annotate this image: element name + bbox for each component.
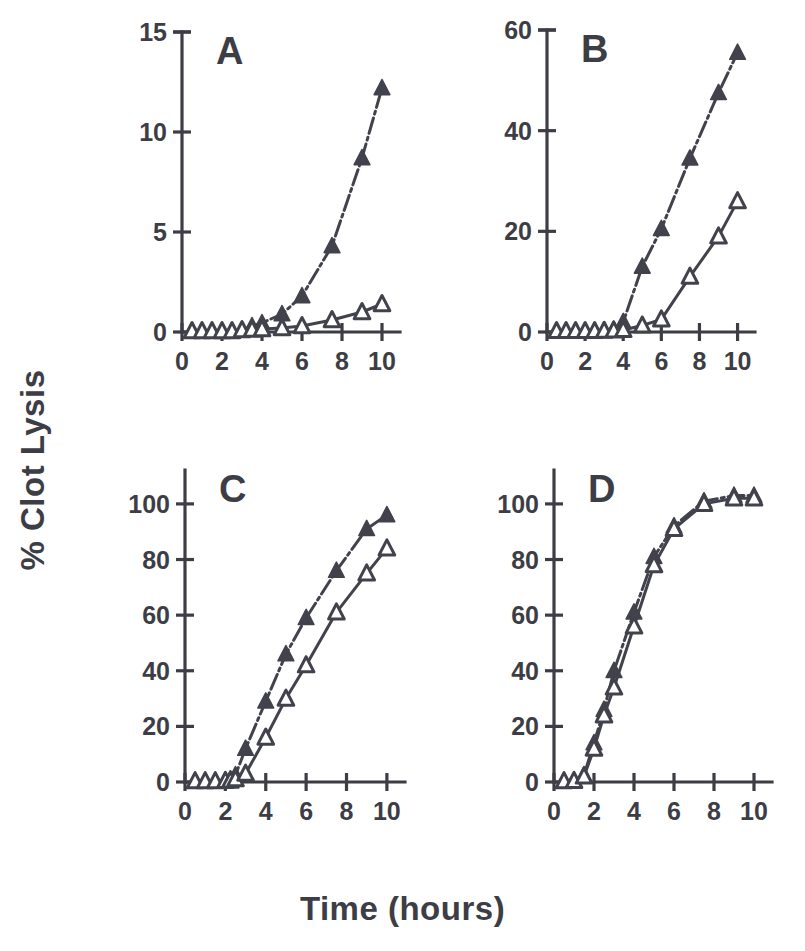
- y-tick-label: 0: [156, 768, 170, 796]
- x-tick-label: 2: [215, 347, 229, 375]
- panel-a: 0510150246810A: [110, 0, 410, 400]
- x-tick-label: 8: [340, 797, 354, 825]
- data-point-open-triangle: [730, 193, 746, 208]
- y-tick-label: 0: [525, 768, 539, 796]
- series-open-triangle: [556, 490, 762, 788]
- data-point-open-triangle: [298, 657, 314, 672]
- x-tick-label: 10: [368, 347, 396, 375]
- x-tick-label: 6: [299, 797, 313, 825]
- panel-letter-c: C: [219, 468, 246, 510]
- data-point-open-triangle: [294, 318, 310, 333]
- data-point-filled-triangle: [238, 740, 254, 755]
- data-point-open-triangle: [726, 490, 742, 505]
- data-point-filled-triangle: [711, 84, 727, 99]
- data-point-filled-triangle: [278, 646, 294, 661]
- data-point-open-triangle: [258, 729, 274, 744]
- data-point-open-triangle: [711, 228, 727, 243]
- x-tick-label: 0: [540, 347, 554, 375]
- y-tick-label: 0: [153, 318, 167, 346]
- data-point-filled-triangle: [379, 507, 395, 522]
- series-open-triangle: [187, 540, 394, 788]
- series-line: [557, 53, 738, 331]
- y-tick-label: 100: [497, 490, 539, 518]
- y-tick-label: 80: [511, 546, 539, 574]
- x-tick-label: 8: [707, 797, 721, 825]
- y-tick-label: 40: [142, 657, 170, 685]
- data-point-filled-triangle: [374, 80, 390, 95]
- x-tick-label: 10: [373, 797, 401, 825]
- data-point-open-triangle: [374, 296, 390, 311]
- data-point-open-triangle: [746, 490, 762, 505]
- data-point-filled-triangle: [634, 258, 650, 273]
- axes: 0204060801000246810: [128, 470, 405, 825]
- data-point-filled-triangle: [258, 693, 274, 708]
- series-line: [195, 515, 387, 781]
- x-tick-label: 10: [740, 797, 768, 825]
- data-point-open-triangle: [586, 740, 602, 755]
- x-tick-label: 8: [335, 347, 349, 375]
- y-tick-label: 0: [518, 318, 532, 346]
- y-tick-label: 80: [142, 546, 170, 574]
- panel-d-plot: 0204060801000246810D: [462, 440, 782, 860]
- panel-letter-d: D: [588, 468, 615, 510]
- data-point-open-triangle: [696, 495, 712, 510]
- panel-d: 0204060801000246810D: [462, 440, 782, 860]
- data-point-open-triangle: [274, 320, 290, 335]
- x-tick-label: 4: [616, 347, 630, 375]
- x-tick-label: 0: [178, 797, 192, 825]
- data-point-open-triangle: [576, 768, 592, 783]
- y-tick-label: 5: [153, 218, 167, 246]
- y-tick-label: 20: [504, 217, 532, 245]
- panel-letter-b: B: [581, 28, 608, 70]
- panel-letter-a: A: [216, 30, 243, 72]
- x-tick-label: 6: [667, 797, 681, 825]
- y-tick-label: 15: [139, 18, 167, 46]
- data-point-open-triangle: [596, 707, 612, 722]
- figure-root: % Clot Lysis 0510150246810A 020406002468…: [0, 0, 805, 951]
- x-tick-label: 10: [724, 347, 752, 375]
- y-tick-label: 20: [142, 712, 170, 740]
- panel-b: 02040600246810B: [465, 0, 765, 400]
- series-line: [195, 548, 387, 781]
- x-tick-label: 4: [627, 797, 641, 825]
- y-axis-label-text: % Clot Lysis: [13, 370, 51, 571]
- series-filled-triangle: [556, 487, 762, 788]
- data-point-open-triangle: [354, 304, 370, 319]
- axes: 02040600246810: [504, 16, 755, 375]
- data-point-open-triangle: [379, 540, 395, 555]
- data-point-filled-triangle: [682, 150, 698, 165]
- data-point-open-triangle: [634, 317, 650, 332]
- y-tick-label: 60: [511, 601, 539, 629]
- panel-c: 0204060801000246810C: [85, 440, 415, 860]
- series-filled-triangle: [549, 44, 746, 337]
- x-tick-label: 4: [255, 347, 269, 375]
- data-point-open-triangle: [254, 321, 270, 336]
- x-tick-label: 2: [578, 347, 592, 375]
- data-point-open-triangle: [626, 618, 642, 633]
- x-tick-label: 2: [587, 797, 601, 825]
- axes: 0510150246810: [139, 18, 400, 375]
- data-point-filled-triangle: [730, 44, 746, 59]
- data-point-open-triangle: [324, 312, 340, 327]
- x-tick-label: 0: [547, 797, 561, 825]
- series-filled-triangle: [187, 507, 394, 788]
- x-tick-label: 8: [692, 347, 706, 375]
- x-axis-label-text: Time (hours): [300, 890, 505, 927]
- panel-a-plot: 0510150246810A: [110, 0, 410, 400]
- y-tick-label: 100: [128, 490, 170, 518]
- x-tick-label: 2: [218, 797, 232, 825]
- axes: 0204060801000246810: [497, 470, 772, 825]
- x-tick-label: 4: [259, 797, 273, 825]
- x-tick-label: 6: [295, 347, 309, 375]
- data-point-open-triangle: [238, 765, 254, 780]
- data-point-filled-triangle: [359, 520, 375, 535]
- y-axis-label: % Clot Lysis: [0, 280, 64, 660]
- y-tick-label: 40: [511, 657, 539, 685]
- y-tick-label: 40: [504, 117, 532, 145]
- y-tick-label: 60: [504, 16, 532, 44]
- x-axis-label: Time (hours): [0, 890, 805, 928]
- y-tick-label: 10: [139, 118, 167, 146]
- data-point-filled-triangle: [324, 238, 340, 253]
- series-line: [192, 88, 382, 331]
- series-filled-triangle: [184, 80, 390, 338]
